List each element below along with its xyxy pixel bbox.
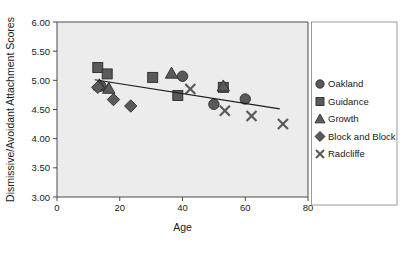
data-point-marker — [93, 63, 103, 73]
legend-item-label: Radcliffe — [328, 148, 365, 159]
chart-figure: ccess the Lifespan ow and society and ma… — [0, 0, 408, 258]
x-tick-label: 0 — [54, 202, 59, 213]
y-tick-label: 3.50 — [32, 162, 51, 173]
legend-item-block-and-block[interactable]: Block and Block — [315, 131, 396, 142]
legend-item-guidance[interactable]: Guidance — [316, 96, 369, 107]
x-axis-tick-labels: 0 20 40 60 80 — [54, 202, 313, 213]
plot-area-background — [57, 22, 308, 197]
y-tick-label: 4.00 — [32, 133, 51, 144]
legend-item-label: Oakland — [328, 78, 363, 89]
y-axis-ticks — [53, 22, 57, 197]
data-point-marker — [209, 99, 219, 109]
data-point-marker — [102, 69, 112, 79]
x-axis-title: Age — [173, 221, 192, 233]
y-tick-label: 3.00 — [32, 192, 51, 203]
x-tick-label: 20 — [114, 202, 125, 213]
y-tick-label: 5.50 — [32, 46, 51, 57]
legend-item-label: Growth — [328, 113, 359, 124]
x-axis-ticks — [57, 197, 308, 201]
legend-item-label: Guidance — [328, 96, 369, 107]
legend-item-label: Block and Block — [328, 131, 396, 142]
y-tick-label: 4.50 — [32, 104, 51, 115]
y-axis-tick-labels: 6.00 5.50 5.00 4.50 4.00 3.50 3.00 — [32, 17, 51, 203]
legend-marker-circle-icon — [316, 80, 324, 88]
y-tick-label: 6.00 — [32, 17, 51, 28]
x-tick-label: 40 — [177, 202, 188, 213]
data-point-marker — [177, 71, 187, 81]
scatter-chart-svg: ccess the Lifespan ow and society and ma… — [0, 0, 408, 258]
y-axis-title: Dismissive/Avoidant Attachment Scores — [4, 17, 16, 202]
x-tick-label: 60 — [240, 202, 251, 213]
legend-marker-square-icon — [316, 98, 324, 106]
data-point-marker — [148, 72, 158, 82]
y-tick-label: 5.00 — [32, 75, 51, 86]
